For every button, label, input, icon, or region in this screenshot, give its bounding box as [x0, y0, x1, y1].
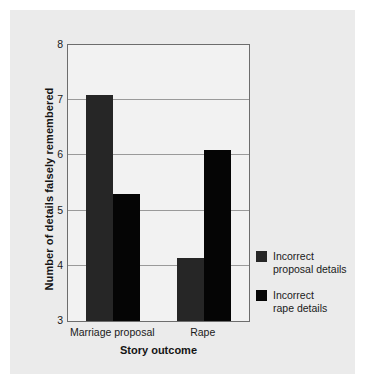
legend-label-line1: Incorrect: [273, 289, 327, 302]
y-axis-tick-label: 7: [41, 94, 63, 105]
x-axis-tick-labels: Marriage proposalRape: [67, 326, 250, 342]
legend-item-label: Incorrectrape details: [273, 289, 327, 315]
legend-label-line2: proposal details: [273, 263, 347, 276]
x-axis-tick-label: Rape: [190, 326, 215, 338]
x-axis-tick-label: Marriage proposal: [70, 326, 155, 338]
legend-label-line1: Incorrect: [273, 250, 347, 263]
y-axis-tick-label: 3: [41, 315, 63, 326]
legend-swatch-icon: [256, 251, 267, 262]
y-axis-tick-label: 6: [41, 149, 63, 160]
chart-figure: Number of details falsely remembered 345…: [10, 10, 355, 374]
legend-item: Incorrectproposal details: [256, 250, 354, 276]
bar: [177, 258, 204, 321]
x-axis-title: Story outcome: [67, 344, 250, 356]
bar: [113, 194, 140, 321]
bar: [204, 150, 231, 321]
bar: [86, 95, 113, 321]
y-axis-tick-label: 4: [41, 260, 63, 271]
plot-area: [67, 44, 250, 322]
y-axis-tick-label: 5: [41, 204, 63, 215]
chart-legend: Incorrectproposal detailsIncorrectrape d…: [256, 250, 354, 329]
legend-label-line2: rape details: [273, 302, 327, 315]
legend-item: Incorrectrape details: [256, 289, 354, 315]
legend-swatch-icon: [256, 290, 267, 301]
y-axis-tick-label: 8: [41, 39, 63, 50]
legend-item-label: Incorrectproposal details: [273, 250, 347, 276]
y-axis-tick-labels: 345678: [35, 44, 63, 322]
